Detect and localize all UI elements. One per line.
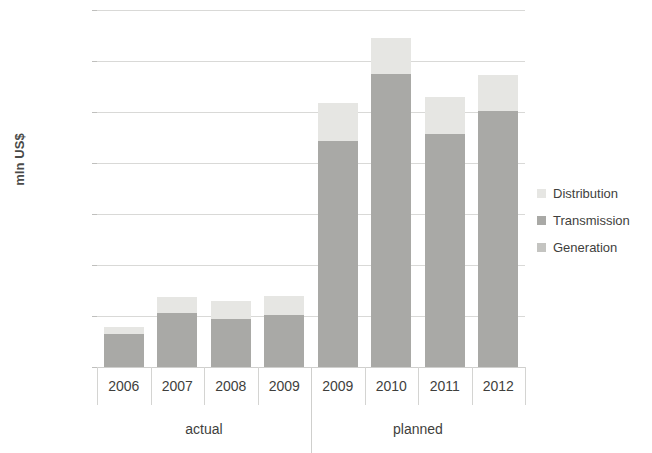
x-axis: 20062007200820092009201020112012 actualp… — [97, 367, 525, 453]
bar-segment-distribution[interactable] — [318, 103, 358, 140]
bar[interactable] — [425, 97, 465, 367]
y-axis-tick — [92, 265, 97, 266]
bar[interactable] — [264, 296, 304, 367]
bar-segment-distribution[interactable] — [478, 75, 518, 111]
legend-item[interactable]: Distribution — [537, 186, 630, 201]
y-axis-tick — [92, 163, 97, 164]
x-axis-group-label: planned — [311, 405, 525, 453]
legend-swatch-icon — [537, 189, 546, 198]
legend-item[interactable]: Generation — [537, 240, 630, 255]
y-axis-title: mln US$ — [12, 115, 27, 205]
legend-swatch-icon — [537, 216, 546, 225]
gridline — [97, 10, 525, 11]
x-axis-category-label: 2009 — [311, 367, 365, 405]
y-axis-tick — [92, 316, 97, 317]
bar[interactable] — [318, 103, 358, 367]
x-axis-separator — [97, 367, 98, 405]
bar-segment-transmission[interactable] — [104, 334, 144, 367]
gridline — [97, 61, 525, 62]
bar[interactable] — [371, 38, 411, 367]
bar[interactable] — [211, 301, 251, 367]
legend-label: Transmission — [553, 213, 630, 228]
bar-segment-transmission[interactable] — [157, 313, 197, 367]
legend-item[interactable]: Transmission — [537, 213, 630, 228]
x-axis-separator — [418, 367, 419, 405]
y-axis-tick — [92, 112, 97, 113]
x-axis-category-label: 2007 — [151, 367, 205, 405]
bar-segment-distribution[interactable] — [211, 301, 251, 319]
bar-segment-transmission[interactable] — [318, 141, 358, 367]
x-axis-category-label: 2009 — [258, 367, 312, 405]
y-axis-tick — [92, 10, 97, 11]
bar-segment-distribution[interactable] — [371, 38, 411, 74]
stacked-bar-chart: mln US$ 1,4001,2001,0008006004002000 200… — [0, 0, 652, 453]
x-axis-separator — [258, 367, 259, 405]
x-axis-separator — [204, 367, 205, 405]
x-axis-category-label: 2010 — [365, 367, 419, 405]
bar[interactable] — [104, 327, 144, 367]
x-axis-group-label: actual — [97, 405, 311, 453]
plot-area: 1,4001,2001,0008006004002000 — [97, 10, 525, 367]
bar-segment-transmission[interactable] — [211, 319, 251, 367]
bar-segment-distribution[interactable] — [425, 97, 465, 134]
x-axis-separator — [525, 367, 526, 405]
legend: DistributionTransmissionGeneration — [537, 186, 630, 255]
bar-segment-distribution[interactable] — [104, 327, 144, 334]
legend-label: Generation — [553, 240, 617, 255]
bar[interactable] — [478, 75, 518, 367]
bar-segment-distribution[interactable] — [157, 297, 197, 313]
x-axis-separator — [365, 367, 366, 405]
bar[interactable] — [157, 297, 197, 367]
group-divider — [311, 367, 312, 453]
legend-swatch-icon — [537, 243, 546, 252]
bar-segment-transmission[interactable] — [425, 134, 465, 367]
x-axis-category-label: 2008 — [204, 367, 258, 405]
x-axis-category-label: 2011 — [418, 367, 472, 405]
y-axis-tick — [92, 61, 97, 62]
x-axis-separator — [151, 367, 152, 405]
bar-segment-transmission[interactable] — [478, 111, 518, 367]
y-axis-tick — [92, 214, 97, 215]
x-axis-separator — [472, 367, 473, 405]
legend-label: Distribution — [553, 186, 618, 201]
bar-segment-distribution[interactable] — [264, 296, 304, 314]
x-axis-category-label: 2006 — [97, 367, 151, 405]
bar-segment-transmission[interactable] — [371, 74, 411, 367]
bar-segment-transmission[interactable] — [264, 315, 304, 367]
x-axis-category-label: 2012 — [472, 367, 526, 405]
